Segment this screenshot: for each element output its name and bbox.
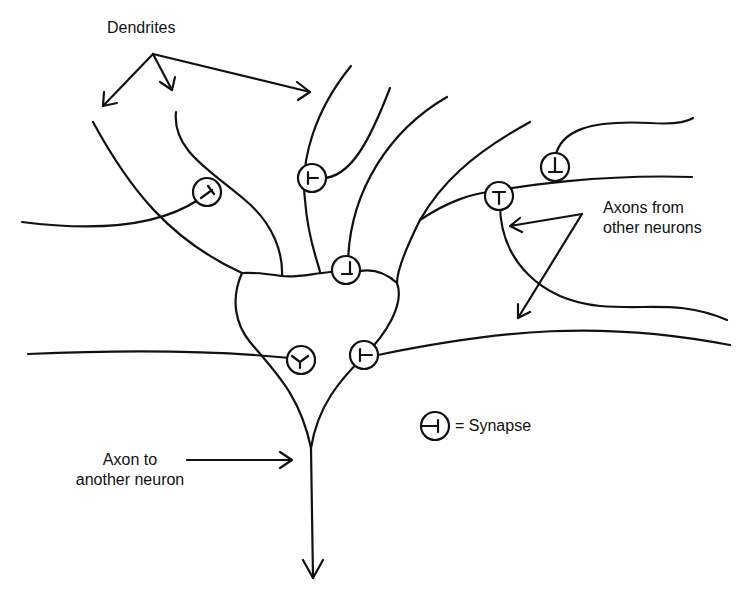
- axon-out: [311, 448, 313, 578]
- axons-from-label-line2: other neurons: [603, 218, 702, 238]
- synapse-legend-label: = Synapse: [455, 416, 531, 436]
- synapse-icon: [193, 178, 221, 206]
- synapse-icon: [485, 182, 513, 210]
- axon-to-pointer-arrow: [187, 452, 292, 468]
- synapse-icon: [350, 341, 378, 369]
- diagram-drawing: [0, 0, 750, 594]
- synapse-icon: [332, 256, 360, 284]
- synapse-icon: [298, 164, 326, 192]
- axon-to-label-line2: another neuron: [68, 470, 192, 490]
- axons-from-label: Axons from other neurons: [603, 198, 702, 238]
- axons-in: [22, 118, 730, 358]
- synapses: [193, 153, 569, 440]
- synapse-icon: [287, 346, 315, 374]
- neuron-diagram: Dendrites Axons from other neurons = Syn…: [0, 0, 750, 594]
- axon-to-label-line1: Axon to: [68, 450, 192, 470]
- synapse-legend-icon: [421, 412, 449, 440]
- axon-to-label: Axon to another neuron: [68, 450, 192, 490]
- dendrites-pointer-arrows: [103, 54, 310, 106]
- dendrites-label: Dendrites: [107, 18, 175, 38]
- synapse-icon: [541, 153, 569, 181]
- axons-from-label-line1: Axons from: [603, 198, 702, 218]
